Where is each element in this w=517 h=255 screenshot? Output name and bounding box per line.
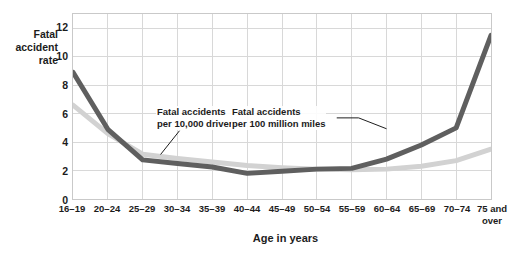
y-tick-label: 8 [44,79,68,91]
y-tick-label: 2 [44,165,68,177]
y-tick-label: 10 [44,50,68,62]
x-tick-label: 75 and over [470,203,514,226]
fatal-accident-rate-chart: Fatal accident rate 0 2 4 6 8 10 12 [0,0,517,255]
y-tick-label: 12 [44,21,68,33]
annotation-leader-miles [359,118,387,129]
annotation-leader-drivers [161,131,180,155]
x-axis-title: Age in years [0,232,517,244]
annotation-miles: Fatal accidents per 100 million miles [231,106,326,130]
plot-area: Fatal accidents per 10,000 drivers Fatal… [72,13,492,200]
y-tick-label: 4 [44,136,68,148]
y-axis-tick-labels: 0 2 4 6 8 10 12 [44,13,68,200]
x-axis-tick-labels: 16–19 20–24 25–29 30–34 35–39 40–44 45–4… [72,203,492,233]
annotation-drivers: Fatal accidents per 10,000 drivers [156,106,239,130]
y-tick-label: 6 [44,108,68,120]
